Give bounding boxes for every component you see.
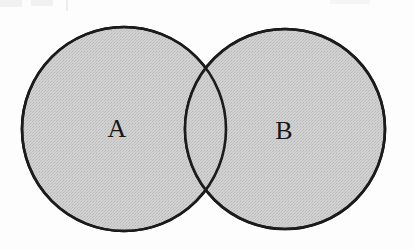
venn-shapes [22, 27, 385, 231]
set-a-label: A [108, 114, 127, 143]
venn-canvas: A B [0, 0, 414, 250]
set-b-label: B [275, 116, 292, 145]
venn-diagram-figure: A B [0, 0, 414, 250]
